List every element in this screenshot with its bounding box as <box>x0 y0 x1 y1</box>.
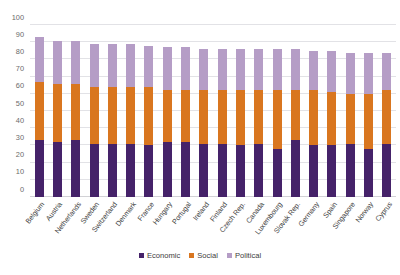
bar-stack[interactable] <box>364 25 373 197</box>
bar-segment-social[interactable] <box>236 90 245 145</box>
bar-stack[interactable] <box>90 25 99 197</box>
bar-segment-political[interactable] <box>364 53 373 94</box>
bar-segment-political[interactable] <box>327 51 336 92</box>
bar-segment-political[interactable] <box>346 53 355 94</box>
bar-segment-social[interactable] <box>126 87 135 144</box>
bar-segment-social[interactable] <box>346 94 355 144</box>
bar-stack[interactable] <box>126 25 135 197</box>
bar-stack[interactable] <box>309 25 318 197</box>
bar-segment-political[interactable] <box>71 41 80 84</box>
bar-stack[interactable] <box>108 25 117 197</box>
bar-segment-political[interactable] <box>53 41 62 84</box>
bar-segment-political[interactable] <box>163 47 172 90</box>
bar-group[interactable] <box>378 25 396 197</box>
bar-segment-social[interactable] <box>309 90 318 145</box>
bar-segment-economic[interactable] <box>90 144 99 197</box>
bar-segment-social[interactable] <box>144 87 153 145</box>
bar-segment-economic[interactable] <box>218 144 227 197</box>
bar-segment-economic[interactable] <box>273 149 282 197</box>
bar-segment-economic[interactable] <box>53 142 62 197</box>
bar-group[interactable] <box>304 25 322 197</box>
bar-stack[interactable] <box>236 25 245 197</box>
bar-segment-economic[interactable] <box>108 144 117 197</box>
bar-stack[interactable] <box>71 25 80 197</box>
bar-group[interactable] <box>48 25 66 197</box>
bar-stack[interactable] <box>163 25 172 197</box>
bar-group[interactable] <box>268 25 286 197</box>
legend-item-political[interactable]: Political <box>227 252 261 260</box>
bar-segment-social[interactable] <box>291 90 300 140</box>
bar-stack[interactable] <box>181 25 190 197</box>
bar-stack[interactable] <box>218 25 227 197</box>
bar-segment-economic[interactable] <box>382 144 391 197</box>
bar-group[interactable] <box>213 25 231 197</box>
bar-segment-social[interactable] <box>181 90 190 142</box>
bar-segment-social[interactable] <box>218 90 227 143</box>
bar-segment-social[interactable] <box>108 87 117 144</box>
bar-stack[interactable] <box>273 25 282 197</box>
bar-stack[interactable] <box>382 25 391 197</box>
bar-segment-social[interactable] <box>90 87 99 144</box>
bar-segment-political[interactable] <box>273 49 282 90</box>
bar-stack[interactable] <box>254 25 263 197</box>
bar-segment-social[interactable] <box>199 90 208 143</box>
bar-segment-economic[interactable] <box>327 145 336 197</box>
bar-group[interactable] <box>85 25 103 197</box>
bar-segment-economic[interactable] <box>126 144 135 197</box>
bar-segment-social[interactable] <box>163 90 172 142</box>
bar-group[interactable] <box>176 25 194 197</box>
bar-segment-political[interactable] <box>126 44 135 87</box>
bar-segment-political[interactable] <box>218 49 227 90</box>
bar-segment-political[interactable] <box>291 49 300 90</box>
bar-segment-political[interactable] <box>108 44 117 87</box>
bar-group[interactable] <box>341 25 359 197</box>
bar-group[interactable] <box>359 25 377 197</box>
bar-segment-political[interactable] <box>144 46 153 87</box>
bar-segment-political[interactable] <box>181 47 190 90</box>
bar-segment-economic[interactable] <box>71 140 80 197</box>
legend-item-economic[interactable]: Economic <box>139 252 180 260</box>
bar-group[interactable] <box>286 25 304 197</box>
bar-segment-economic[interactable] <box>254 144 263 197</box>
bar-segment-economic[interactable] <box>364 149 373 197</box>
bar-segment-economic[interactable] <box>346 144 355 197</box>
bar-segment-economic[interactable] <box>309 145 318 197</box>
bar-segment-social[interactable] <box>364 94 373 149</box>
bar-segment-economic[interactable] <box>236 145 245 197</box>
bar-segment-political[interactable] <box>254 49 263 90</box>
bar-group[interactable] <box>140 25 158 197</box>
bar-stack[interactable] <box>144 25 153 197</box>
bar-stack[interactable] <box>346 25 355 197</box>
bar-group[interactable] <box>67 25 85 197</box>
bar-stack[interactable] <box>53 25 62 197</box>
bar-segment-social[interactable] <box>273 90 282 148</box>
bar-segment-social[interactable] <box>327 92 336 145</box>
bar-group[interactable] <box>231 25 249 197</box>
bar-stack[interactable] <box>327 25 336 197</box>
bar-segment-political[interactable] <box>309 51 318 91</box>
bar-group[interactable] <box>103 25 121 197</box>
bar-segment-social[interactable] <box>71 84 80 141</box>
bar-group[interactable] <box>30 25 48 197</box>
bar-group[interactable] <box>158 25 176 197</box>
bar-stack[interactable] <box>199 25 208 197</box>
bar-segment-social[interactable] <box>53 84 62 142</box>
bar-segment-social[interactable] <box>35 82 44 140</box>
bar-segment-political[interactable] <box>382 53 391 91</box>
bar-group[interactable] <box>323 25 341 197</box>
bar-stack[interactable] <box>291 25 300 197</box>
bar-group[interactable] <box>195 25 213 197</box>
legend-item-social[interactable]: Social <box>189 252 218 260</box>
bar-group[interactable] <box>121 25 139 197</box>
bar-segment-political[interactable] <box>199 49 208 90</box>
bar-stack[interactable] <box>35 25 44 197</box>
bar-segment-economic[interactable] <box>35 140 44 197</box>
bar-segment-economic[interactable] <box>144 145 153 197</box>
bar-segment-economic[interactable] <box>291 140 300 197</box>
bar-segment-economic[interactable] <box>199 144 208 197</box>
bar-segment-political[interactable] <box>236 49 245 90</box>
bar-segment-economic[interactable] <box>163 142 172 197</box>
bar-group[interactable] <box>250 25 268 197</box>
bar-segment-political[interactable] <box>90 44 99 87</box>
bar-segment-political[interactable] <box>35 37 44 82</box>
